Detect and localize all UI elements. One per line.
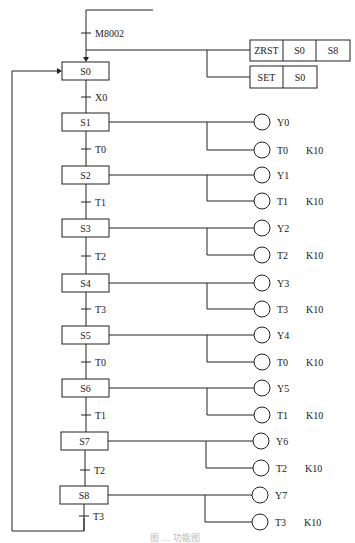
step-label: S5 xyxy=(80,330,91,341)
transition-label: T0 xyxy=(95,144,106,155)
set-arg: S0 xyxy=(295,72,306,83)
step-label: S7 xyxy=(79,436,90,447)
output-label: Y0 xyxy=(277,117,289,128)
transition-label: T3 xyxy=(95,304,106,315)
timer-const: K10 xyxy=(306,357,323,368)
step-s0-label: S0 xyxy=(80,66,91,77)
coil-timer-icon xyxy=(254,301,270,317)
coil-output-icon xyxy=(252,487,268,503)
coil-output-icon xyxy=(254,275,270,291)
sfc-diagram: M8002 ZRST S0 S8 SET S0 S0 X0 S1 xyxy=(0,0,355,543)
coil-timer-icon xyxy=(254,193,270,209)
coil-timer-icon xyxy=(253,460,269,476)
timer-const: K10 xyxy=(306,196,323,207)
step-label: S3 xyxy=(80,223,91,234)
output-label: Y4 xyxy=(277,330,289,341)
coil-timer-icon xyxy=(252,514,268,530)
zrst-op: ZRST xyxy=(254,45,278,56)
coil-timer-icon xyxy=(254,247,270,263)
step-label: S6 xyxy=(80,383,91,394)
step-s2: S2 Y1 T1 K10 T1 xyxy=(62,166,323,219)
set-instruction: SET S0 xyxy=(250,66,317,88)
timer-label: T0 xyxy=(277,145,288,156)
timer-const: K10 xyxy=(306,145,323,156)
step-s1: S1 Y0 T0 K10 T0 xyxy=(62,113,323,166)
timer-label: T3 xyxy=(277,304,288,315)
zrst-arg1: S0 xyxy=(294,45,305,56)
step-s0: S0 X0 xyxy=(62,62,109,113)
transition-label: T1 xyxy=(95,197,106,208)
timer-label: T2 xyxy=(276,463,287,474)
coil-output-icon xyxy=(253,433,269,449)
step-s6: S6 Y5 T1 K10 T1 xyxy=(62,379,323,432)
step-s4: S4 Y3 T3 K10 T3 xyxy=(62,274,323,326)
transition-label: T2 xyxy=(95,251,106,262)
coil-output-icon xyxy=(254,167,270,183)
timer-label: T3 xyxy=(275,517,286,528)
step-label: S1 xyxy=(80,117,91,128)
transition-label: T2 xyxy=(94,465,105,476)
coil-output-icon xyxy=(254,327,270,343)
transition-label: T1 xyxy=(95,410,106,421)
zrst-instruction: ZRST S0 S8 xyxy=(250,40,350,61)
output-label: Y1 xyxy=(277,170,289,181)
output-label: Y6 xyxy=(276,436,288,447)
loop-back-line xyxy=(12,68,84,531)
coil-timer-icon xyxy=(254,407,270,423)
timer-const: K10 xyxy=(306,250,323,261)
timer-const: K10 xyxy=(305,463,322,474)
transition-m8002-label: M8002 xyxy=(95,28,124,39)
arrow-right-icon xyxy=(57,68,62,74)
coil-output-icon xyxy=(254,220,270,236)
timer-const: K10 xyxy=(306,304,323,315)
output-label: Y2 xyxy=(277,223,289,234)
step-label: S4 xyxy=(80,278,91,289)
coil-output-icon xyxy=(254,380,270,396)
step-s5: S5 Y4 T0 K10 T0 xyxy=(62,326,323,379)
set-op: SET xyxy=(258,72,276,83)
output-label: Y3 xyxy=(277,278,289,289)
step-s3: S3 Y2 T2 K10 T2 xyxy=(62,219,323,274)
transition-label: T3 xyxy=(93,511,104,522)
figure-caption: 图 … 功能图 xyxy=(150,532,201,543)
coil-timer-icon xyxy=(254,142,270,158)
output-label: Y5 xyxy=(277,383,289,394)
step-s8: S8 Y7 T3 K10 T3 xyxy=(60,486,321,531)
step-label: S2 xyxy=(80,170,91,181)
coil-output-icon xyxy=(254,114,270,130)
timer-const: K10 xyxy=(306,410,323,421)
coil-timer-icon xyxy=(254,354,270,370)
timer-const: K10 xyxy=(304,517,321,528)
output-label: Y7 xyxy=(275,490,287,501)
step-s7: S7 Y6 T2 K10 T2 xyxy=(61,432,322,486)
transition-x0-label: X0 xyxy=(95,92,107,103)
timer-label: T1 xyxy=(277,196,288,207)
arrow-down-icon xyxy=(83,57,89,62)
zrst-arg2: S8 xyxy=(328,45,339,56)
timer-label: T0 xyxy=(277,357,288,368)
step-label: S8 xyxy=(79,490,90,501)
timer-label: T1 xyxy=(277,410,288,421)
timer-label: T2 xyxy=(277,250,288,261)
transition-label: T0 xyxy=(95,357,106,368)
